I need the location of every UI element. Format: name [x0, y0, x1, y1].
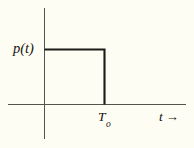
arrow-right-icon: → [166, 110, 178, 123]
x-axis-variable: t [159, 110, 163, 124]
figure-container: p(t) To t→ [0, 0, 194, 148]
x-axis-label: t→ [159, 110, 178, 124]
pulse-waveform [45, 50, 105, 105]
pulse-plot [0, 0, 194, 148]
pulse-width-label: To [98, 110, 110, 127]
pulse-width-base: T [98, 109, 106, 124]
pulse-width-subscript: o [106, 119, 111, 129]
signal-amplitude-label: p(t) [13, 41, 34, 56]
